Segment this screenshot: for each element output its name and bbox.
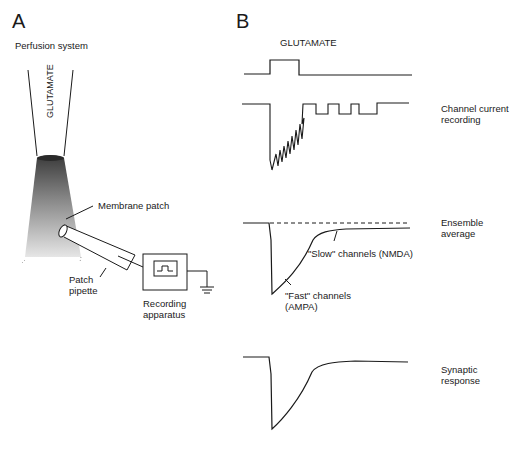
membrane-patch-label: Membrane patch — [98, 200, 169, 211]
fast-channels-label-line2: (AMPA) — [285, 301, 318, 312]
glutamate-pulse-trace — [244, 60, 412, 75]
synaptic-label-line2: response — [441, 375, 480, 386]
channel-current-trace — [242, 103, 409, 170]
ground-icon — [200, 287, 214, 293]
synaptic-response-trace — [243, 357, 408, 429]
ensemble-label-line2: average — [441, 228, 475, 239]
panel-a-letter: A — [12, 10, 25, 33]
recording-apparatus — [143, 254, 207, 290]
patch-label-line2: pipette — [69, 285, 98, 296]
stimulus-glutamate-label: GLUTAMATE — [280, 37, 337, 48]
diagram-canvas — [0, 0, 516, 449]
fast-leader — [285, 279, 291, 285]
panel-b-letter: B — [236, 10, 249, 33]
glutamate-spray — [21, 155, 81, 264]
fast-channels-label-line1: "Fast" channels — [285, 290, 351, 301]
patch-label-line1: Patch — [69, 274, 93, 285]
channel-current-label-line2: recording — [441, 114, 481, 125]
pipette-leader — [100, 268, 106, 277]
recording-label-line2: apparatus — [143, 309, 185, 320]
ensemble-label-line1: Ensemble — [441, 217, 483, 228]
perfusion-system-label: Perfusion system — [15, 40, 88, 51]
recording-label-line1: Recording — [143, 298, 186, 309]
slow-channels-label: "Slow" channels (NMDA) — [308, 248, 413, 259]
slow-leader — [334, 231, 337, 241]
channel-current-label-line1: Channel current — [441, 103, 509, 114]
synaptic-label-line1: Synaptic — [441, 364, 477, 375]
tube-glutamate-label: GLUTAMATE — [45, 64, 56, 118]
